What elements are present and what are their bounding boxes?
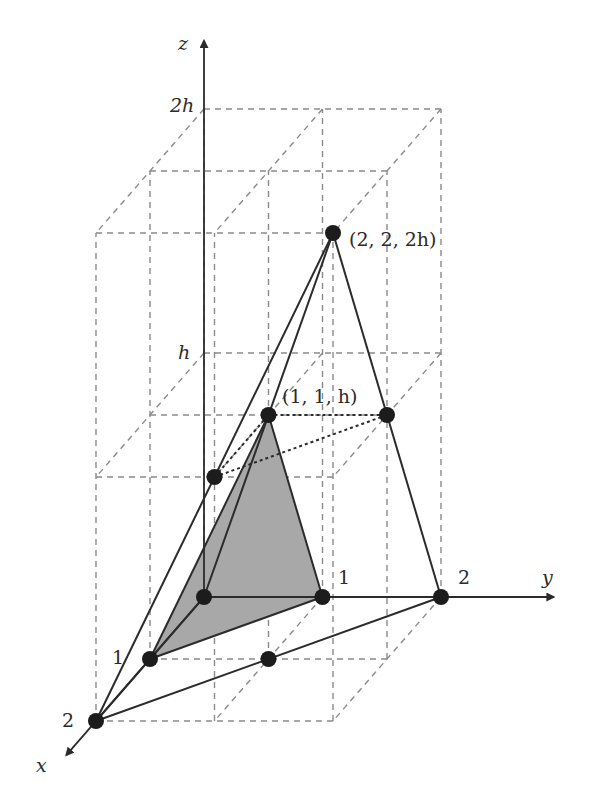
vertex-x1	[142, 651, 158, 667]
tick-label-x: 2	[62, 709, 74, 731]
shaded-cross-section	[150, 415, 323, 659]
tick-label-z: 2h	[169, 94, 194, 116]
vertex-y2	[433, 589, 449, 605]
labels: x y z 1212h2h(1, 1, h)(2, 2, 2h)	[36, 32, 553, 776]
shaded-triangle	[150, 415, 323, 659]
vertex-y1	[315, 589, 331, 605]
y-axis-label: y	[541, 566, 553, 588]
vertex-apex	[325, 225, 341, 241]
point-label-apex: (2, 2, 2h)	[349, 228, 437, 250]
z-axis-label: z	[177, 32, 189, 54]
point-label-mid-top: (1, 1, h)	[282, 385, 357, 407]
tick-label-x: 1	[112, 646, 124, 668]
tick-label-z: h	[178, 341, 190, 363]
vertex-origin	[196, 589, 212, 605]
vertex-mid-top	[261, 407, 277, 423]
tick-label-y: 2	[458, 566, 470, 588]
x-axis-label: x	[36, 754, 47, 776]
vertex-mid-right	[379, 407, 395, 423]
vertex-x2	[88, 713, 104, 729]
vertex-base-mid	[261, 651, 277, 667]
vertex-mid-left	[207, 469, 223, 485]
pyramid-diagram: x y z 1212h2h(1, 1, h)(2, 2, 2h)	[0, 0, 592, 808]
tick-label-y: 1	[338, 566, 350, 588]
